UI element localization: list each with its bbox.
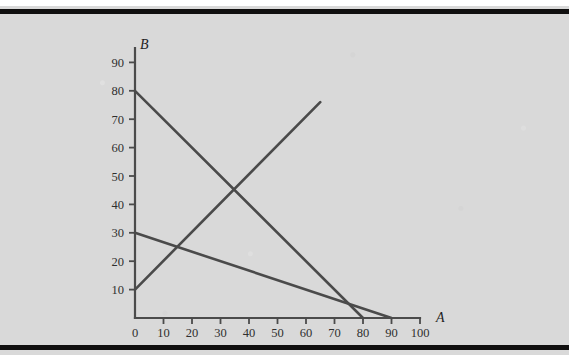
y-tick-label: 40 xyxy=(112,198,125,212)
x-tick-label: 70 xyxy=(328,326,341,340)
figure-root: 0102030405060708090100102030405060708090… xyxy=(0,0,581,361)
steep-declining-line xyxy=(135,91,363,318)
y-tick-label: 60 xyxy=(112,141,125,155)
x-tick-label: 30 xyxy=(214,326,227,340)
x-axis-title: A xyxy=(435,310,445,325)
x-tick-label: 60 xyxy=(300,326,313,340)
y-tick-label: 10 xyxy=(112,283,125,297)
rising-line xyxy=(135,102,320,289)
shallow-declining-line xyxy=(135,233,392,318)
y-tick-label: 70 xyxy=(112,113,125,127)
y-tick-label: 80 xyxy=(112,84,125,98)
x-tick-label: 40 xyxy=(243,326,256,340)
x-tick-label: 90 xyxy=(385,326,398,340)
x-tick-label: 100 xyxy=(411,326,430,340)
y-tick-label: 50 xyxy=(112,170,125,184)
chart-canvas: 0102030405060708090100102030405060708090… xyxy=(0,0,581,361)
x-tick-label: 0 xyxy=(132,326,138,340)
x-tick-label: 20 xyxy=(186,326,199,340)
x-tick-label: 50 xyxy=(271,326,284,340)
y-tick-label: 90 xyxy=(112,56,125,70)
y-tick-label: 30 xyxy=(112,226,125,240)
x-tick-label: 80 xyxy=(357,326,370,340)
y-axis-title: B xyxy=(140,37,149,52)
x-tick-label: 10 xyxy=(157,326,170,340)
y-tick-label: 20 xyxy=(112,255,125,269)
